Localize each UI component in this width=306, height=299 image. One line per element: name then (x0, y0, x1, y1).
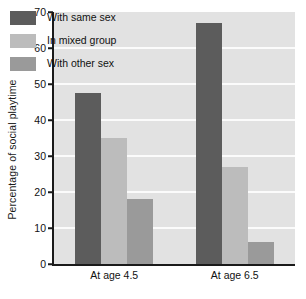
bar (127, 199, 153, 264)
legend-swatch (10, 57, 36, 71)
legend-item: With other sex (10, 52, 150, 75)
bar (101, 138, 127, 264)
bar (222, 167, 248, 264)
y-axis-tick-label: 20 (22, 187, 46, 198)
bar (196, 23, 222, 264)
bar (248, 242, 274, 264)
x-axis-tick-labels: At age 4.5At age 6.5 (54, 270, 295, 290)
x-axis-tick-label: At age 6.5 (211, 270, 259, 281)
x-axis-tick-label: At age 4.5 (90, 270, 138, 281)
x-axis-line (52, 264, 295, 266)
y-axis-tick-label: 40 (22, 115, 46, 126)
legend-swatch (10, 34, 36, 48)
legend-label: With same sex (47, 12, 116, 23)
y-axis-tick-label: 50 (22, 79, 46, 90)
legend-swatch (10, 11, 36, 25)
bar (75, 93, 101, 264)
y-axis-tick-label: 10 (22, 223, 46, 234)
legend-label: With other sex (47, 58, 114, 69)
gridline (54, 83, 295, 85)
legend-item: In mixed group (10, 29, 150, 52)
y-axis-tick-label: 0 (22, 259, 46, 270)
bar-chart: Percentage of social playtime 0102030405… (0, 0, 306, 299)
legend-label: In mixed group (47, 35, 116, 46)
legend-item: With same sex (10, 6, 150, 29)
y-axis-tick-label: 30 (22, 151, 46, 162)
legend: With same sexIn mixed groupWith other se… (10, 6, 150, 75)
